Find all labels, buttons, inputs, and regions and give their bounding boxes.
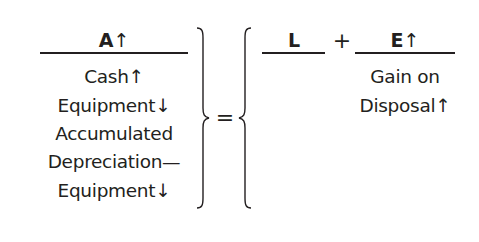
liabilities-heading: L [262, 29, 326, 51]
liabilities-underline [262, 52, 325, 54]
assets-letter: A [99, 29, 114, 51]
assets-item-accumulated: Accumulated [40, 123, 188, 145]
equity-letter: E [391, 29, 404, 51]
assets-item-equipment-2: Equipment↓ [40, 180, 188, 202]
equals-sign: = [214, 106, 236, 130]
up-arrow-icon: ↑ [113, 29, 129, 51]
equity-underline [355, 52, 455, 54]
assets-item-depreciation: Depreciation— [40, 151, 188, 173]
plus-sign: + [331, 29, 353, 53]
closing-brace-icon [196, 26, 212, 210]
up-arrow-icon: ↑ [404, 29, 420, 51]
equity-item-gain-on: Gain on [345, 66, 465, 88]
equity-heading: E↑ [355, 29, 455, 51]
assets-item-equipment: Equipment↓ [40, 95, 188, 117]
opening-brace-icon [236, 26, 252, 210]
assets-underline [40, 52, 188, 54]
assets-heading: A↑ [40, 29, 188, 51]
liabilities-letter: L [288, 29, 300, 51]
assets-item-cash: Cash↑ [40, 66, 188, 88]
equity-item-disposal: Disposal↑ [345, 95, 465, 117]
